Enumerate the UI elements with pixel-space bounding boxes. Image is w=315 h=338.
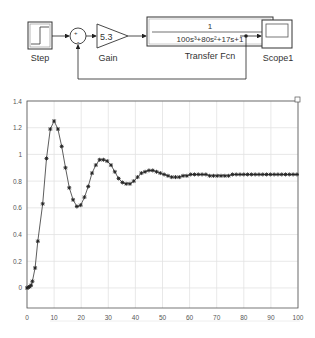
star-marker-icon bbox=[79, 203, 83, 207]
x-tick-label: 30 bbox=[105, 314, 113, 321]
star-marker-icon bbox=[124, 182, 128, 186]
step-label: Step bbox=[31, 53, 50, 63]
star-marker-icon bbox=[234, 172, 238, 176]
star-marker-icon bbox=[158, 171, 162, 175]
star-marker-icon bbox=[90, 171, 94, 175]
gain-value: 5.3 bbox=[100, 32, 113, 42]
y-tick-label: 0.6 bbox=[13, 204, 22, 211]
star-marker-icon bbox=[272, 172, 276, 176]
star-marker-icon bbox=[246, 172, 250, 176]
star-marker-icon bbox=[113, 170, 117, 174]
star-marker-icon bbox=[94, 163, 98, 167]
star-marker-icon bbox=[177, 175, 181, 179]
star-marker-icon bbox=[257, 172, 261, 176]
star-marker-icon bbox=[200, 172, 204, 176]
star-marker-icon bbox=[48, 127, 52, 131]
star-marker-icon bbox=[60, 144, 64, 148]
scope-label: Scope1 bbox=[263, 53, 294, 63]
star-marker-icon bbox=[67, 186, 71, 190]
data-markers bbox=[25, 119, 299, 290]
x-tick-label: 40 bbox=[132, 314, 140, 321]
y-tick-label: 1 bbox=[18, 151, 22, 158]
star-marker-icon bbox=[136, 175, 140, 179]
star-marker-icon bbox=[230, 172, 234, 176]
scope-block[interactable] bbox=[262, 20, 292, 48]
transfer-fcn-block[interactable]: 1 100s³+80s²+17s+1 bbox=[147, 17, 273, 46]
star-marker-icon bbox=[261, 172, 265, 176]
transfer-fcn-label: Transfer Fcn bbox=[185, 51, 236, 61]
star-marker-icon bbox=[219, 174, 223, 178]
tf-numerator: 1 bbox=[208, 22, 213, 31]
star-marker-icon bbox=[189, 172, 193, 176]
star-marker-icon bbox=[265, 172, 269, 176]
step-block[interactable] bbox=[28, 22, 52, 49]
star-marker-icon bbox=[147, 168, 151, 172]
star-marker-icon bbox=[98, 158, 102, 162]
star-marker-icon bbox=[291, 172, 295, 176]
star-marker-icon bbox=[227, 174, 231, 178]
star-marker-icon bbox=[284, 172, 288, 176]
corner-resize-icon[interactable] bbox=[295, 97, 300, 102]
y-tick-label: 0.2 bbox=[13, 258, 22, 265]
star-marker-icon bbox=[52, 119, 56, 123]
star-marker-icon bbox=[151, 168, 155, 172]
tf-denominator: 100s³+80s²+17s+1 bbox=[177, 35, 244, 44]
x-tick-labels: 0102030405060708090100 bbox=[25, 314, 304, 321]
y-tick-label: 1.2 bbox=[13, 124, 22, 131]
x-tick-label: 0 bbox=[25, 314, 29, 321]
star-marker-icon bbox=[33, 266, 37, 270]
star-marker-icon bbox=[287, 172, 291, 176]
star-marker-icon bbox=[166, 174, 170, 178]
y-tick-label: 1.4 bbox=[13, 98, 22, 105]
star-marker-icon bbox=[143, 170, 147, 174]
star-marker-icon bbox=[41, 202, 45, 206]
star-marker-icon bbox=[276, 172, 280, 176]
star-marker-icon bbox=[36, 239, 40, 243]
scope-icon bbox=[266, 24, 288, 37]
sum-block[interactable]: + - bbox=[70, 28, 86, 45]
star-marker-icon bbox=[162, 172, 166, 176]
star-marker-icon bbox=[211, 174, 215, 178]
star-marker-icon bbox=[117, 176, 121, 180]
star-marker-icon bbox=[45, 156, 49, 160]
star-marker-icon bbox=[63, 166, 67, 170]
star-marker-icon bbox=[128, 182, 132, 186]
star-marker-icon bbox=[181, 174, 185, 178]
star-marker-icon bbox=[253, 172, 257, 176]
star-marker-icon bbox=[56, 127, 60, 131]
star-marker-icon bbox=[29, 283, 33, 287]
y-tick-label: 0.4 bbox=[13, 231, 22, 238]
star-marker-icon bbox=[204, 172, 208, 176]
star-marker-icon bbox=[215, 174, 219, 178]
star-marker-icon bbox=[295, 172, 299, 176]
svg-text:+: + bbox=[74, 30, 78, 36]
star-marker-icon bbox=[223, 174, 227, 178]
star-marker-icon bbox=[105, 159, 109, 163]
x-tick-label: 90 bbox=[267, 314, 275, 321]
star-marker-icon bbox=[238, 172, 242, 176]
gain-block[interactable]: 5.3 bbox=[97, 24, 128, 48]
x-tick-label: 80 bbox=[240, 314, 248, 321]
plot-grid bbox=[27, 101, 298, 308]
star-marker-icon bbox=[139, 171, 143, 175]
star-marker-icon bbox=[249, 172, 253, 176]
x-tick-label: 10 bbox=[50, 314, 58, 321]
star-marker-icon bbox=[101, 158, 105, 162]
scope-plot: 00.20.40.60.811.21.4 0102030405060708090… bbox=[0, 88, 315, 338]
star-marker-icon bbox=[185, 174, 189, 178]
x-tick-label: 20 bbox=[78, 314, 86, 321]
star-marker-icon bbox=[196, 172, 200, 176]
star-marker-icon bbox=[280, 172, 284, 176]
x-tick-label: 100 bbox=[293, 314, 304, 321]
y-tick-labels: 00.20.40.60.811.21.4 bbox=[13, 98, 22, 292]
y-tick-label: 0.8 bbox=[13, 178, 22, 185]
star-marker-icon bbox=[242, 172, 246, 176]
response-curve bbox=[27, 121, 297, 288]
star-marker-icon bbox=[268, 172, 272, 176]
star-marker-icon bbox=[120, 180, 124, 184]
star-marker-icon bbox=[75, 205, 79, 209]
star-marker-icon bbox=[71, 198, 75, 202]
star-marker-icon bbox=[30, 279, 34, 283]
x-tick-label: 70 bbox=[213, 314, 221, 321]
star-marker-icon bbox=[82, 195, 86, 199]
